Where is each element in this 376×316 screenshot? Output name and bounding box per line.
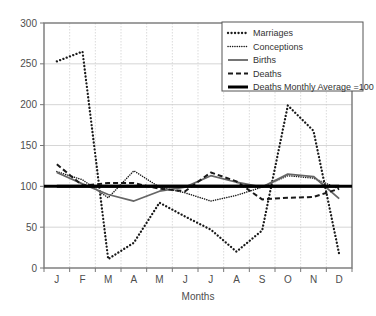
chart-container: 050100150200250300 JFMAMJJASOND Months M… — [0, 0, 376, 316]
y-tick-label: 250 — [20, 58, 37, 69]
x-tick-label: A — [233, 274, 240, 285]
legend-item-label[interactable]: Deaths Monthly Average =100 — [253, 82, 374, 92]
x-tick-label: F — [79, 274, 85, 285]
legend-item-label[interactable]: Deaths — [253, 69, 282, 79]
chart-legend[interactable]: MarriagesConceptionsBirthsDeathsDeaths M… — [222, 22, 374, 92]
x-tick-label: M — [155, 274, 163, 285]
legend-item-label[interactable]: Births — [253, 55, 277, 65]
x-axis-title: Months — [182, 291, 215, 302]
legend-item-label[interactable]: Conceptions — [253, 42, 304, 52]
x-tick-label: M — [104, 274, 112, 285]
line-chart: 050100150200250300 JFMAMJJASOND Months M… — [0, 0, 376, 316]
x-tick-label: A — [130, 274, 137, 285]
x-tick-label: J — [183, 274, 188, 285]
x-tick-label: J — [54, 274, 59, 285]
x-tick-label: D — [336, 274, 343, 285]
y-tick-label: 300 — [20, 18, 37, 29]
x-tick-label: S — [259, 274, 266, 285]
y-tick-label: 0 — [31, 263, 37, 274]
legend-item-label[interactable]: Marriages — [253, 28, 294, 38]
y-tick-label: 50 — [26, 222, 38, 233]
x-tick-label: O — [284, 274, 292, 285]
y-tick-label: 200 — [20, 99, 37, 110]
x-tick-label: J — [208, 274, 213, 285]
x-tick-label: N — [310, 274, 317, 285]
y-tick-label: 150 — [20, 140, 37, 151]
y-tick-label: 100 — [20, 181, 37, 192]
